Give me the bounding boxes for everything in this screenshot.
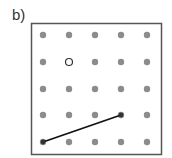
grid-dot (92, 112, 98, 118)
grid-dot (40, 32, 46, 38)
grid-dot (144, 112, 150, 118)
grid-dot (92, 86, 98, 92)
grid-dot (144, 86, 150, 92)
line-segment (43, 115, 121, 142)
grid-dot (92, 59, 98, 65)
grid-dot (144, 59, 150, 65)
grid-dot (40, 112, 46, 118)
open-circle-point (66, 59, 73, 66)
grid-dot (144, 139, 150, 145)
grid-dot (66, 86, 72, 92)
segment-endpoint (41, 140, 46, 145)
grid-dot (40, 86, 46, 92)
grid-dot (92, 32, 98, 38)
grid-dots (40, 32, 150, 145)
grid-dot (66, 32, 72, 38)
grid-dot (118, 59, 124, 65)
grid-dot (118, 86, 124, 92)
grid-dot (66, 139, 72, 145)
grid-dot (92, 139, 98, 145)
grid-dot (144, 32, 150, 38)
grid-dot (66, 112, 72, 118)
grid-dot (118, 32, 124, 38)
grid-dot (40, 59, 46, 65)
grid-dot (118, 139, 124, 145)
segment-endpoint (119, 113, 124, 118)
dot-grid-diagram (0, 0, 172, 158)
